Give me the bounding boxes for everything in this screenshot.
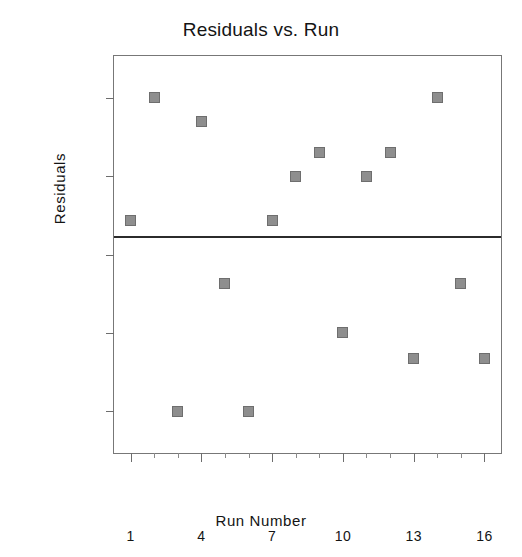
- x-tick-mark: [343, 453, 344, 462]
- x-tick-label: 10: [313, 528, 373, 544]
- x-tick-mark: [484, 453, 485, 462]
- x-tick-mark-minor: [225, 453, 226, 458]
- x-tick-mark: [414, 453, 415, 462]
- data-point-marker: [361, 171, 372, 182]
- data-point-marker: [290, 171, 301, 182]
- data-point-marker: [385, 147, 396, 158]
- data-point-marker: [149, 92, 160, 103]
- x-axis-title: Run Number: [0, 512, 522, 529]
- x-tick-mark: [131, 453, 132, 462]
- x-tick-mark-minor: [461, 453, 462, 458]
- x-tick-mark-minor: [296, 453, 297, 458]
- y-tick-mark: [106, 176, 114, 177]
- x-tick-mark-minor: [178, 453, 179, 458]
- x-tick-label: 4: [171, 528, 231, 544]
- data-point-marker: [455, 278, 466, 289]
- data-point-marker: [479, 353, 490, 364]
- plot-inner: 1.3750.625-0.125-0.875-1.625147101316: [114, 56, 501, 453]
- chart-title: Residuals vs. Run: [0, 19, 522, 41]
- chart-figure: Residuals vs. Run Residuals 1.3750.625-0…: [0, 0, 522, 557]
- x-tick-label: 13: [384, 528, 444, 544]
- x-tick-mark: [201, 453, 202, 462]
- y-tick-mark: [106, 333, 114, 334]
- data-point-marker: [172, 406, 183, 417]
- data-point-marker: [125, 215, 136, 226]
- data-point-marker: [408, 353, 419, 364]
- x-tick-label: 7: [242, 528, 302, 544]
- data-point-marker: [314, 147, 325, 158]
- reference-line: [114, 236, 501, 238]
- data-point-marker: [219, 278, 230, 289]
- plot-area: 1.3750.625-0.125-0.875-1.625147101316: [113, 55, 502, 454]
- x-tick-label: 1: [101, 528, 161, 544]
- y-tick-mark: [106, 255, 114, 256]
- x-tick-label: 16: [454, 528, 514, 544]
- x-tick-mark-minor: [249, 453, 250, 458]
- data-point-marker: [196, 116, 207, 127]
- data-point-marker: [267, 215, 278, 226]
- x-tick-mark-minor: [319, 453, 320, 458]
- x-tick-mark: [272, 453, 273, 462]
- y-tick-mark: [106, 98, 114, 99]
- data-point-marker: [243, 406, 254, 417]
- data-point-marker: [432, 92, 443, 103]
- x-tick-mark-minor: [437, 453, 438, 458]
- y-tick-mark: [106, 411, 114, 412]
- x-tick-mark-minor: [366, 453, 367, 458]
- x-tick-mark-minor: [154, 453, 155, 458]
- y-axis-title: Residuals: [51, 124, 68, 254]
- x-tick-mark-minor: [390, 453, 391, 458]
- data-point-marker: [337, 327, 348, 338]
